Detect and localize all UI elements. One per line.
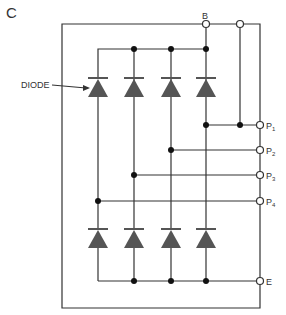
terminal-e bbox=[257, 278, 264, 285]
panel-label: C bbox=[6, 4, 17, 21]
callout-label-diode: DIODE bbox=[21, 80, 50, 90]
diodes-top-row bbox=[88, 77, 216, 97]
diode-icon bbox=[196, 228, 216, 248]
callout-arrowhead bbox=[83, 85, 90, 91]
diode-icon bbox=[124, 228, 144, 248]
terminal-label-p3: P3 bbox=[266, 171, 276, 182]
diode-icon bbox=[88, 77, 108, 97]
terminal-label-e: E bbox=[266, 277, 272, 287]
diode-icon bbox=[161, 228, 181, 248]
junction-dots bbox=[95, 46, 243, 284]
terminal-p1 bbox=[257, 122, 264, 129]
diodes-bottom-row bbox=[88, 228, 216, 248]
terminal-label-p2: P2 bbox=[266, 146, 276, 157]
wires bbox=[52, 24, 260, 308]
diode-icon bbox=[88, 228, 108, 248]
diode-icon bbox=[161, 77, 181, 97]
diode-icon bbox=[196, 77, 216, 97]
terminal-label-p1: P1 bbox=[266, 121, 276, 132]
terminal-b bbox=[203, 21, 210, 28]
terminal-p2 bbox=[257, 147, 264, 154]
terminal-p3 bbox=[257, 172, 264, 179]
terminal-b2 bbox=[237, 21, 244, 28]
diode-icon bbox=[124, 77, 144, 97]
terminal-p4 bbox=[257, 198, 264, 205]
terminal-label-p4: P4 bbox=[266, 197, 276, 208]
terminal-label-b: B bbox=[202, 11, 208, 21]
diode-matrix-diagram: C bbox=[0, 0, 286, 315]
